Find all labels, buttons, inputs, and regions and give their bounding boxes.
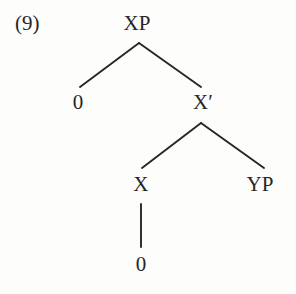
tree-edge-xp-to-spec bbox=[80, 43, 139, 87]
tree-node-specifier-zero: 0 bbox=[73, 92, 84, 113]
tree-branch-lines bbox=[0, 0, 296, 294]
tree-node-xp: XP bbox=[123, 13, 150, 34]
tree-edge-xbar-to-yp bbox=[201, 123, 264, 168]
tree-node-complement-yp: YP bbox=[246, 174, 273, 195]
tree-node-head-terminal-zero: 0 bbox=[136, 254, 147, 275]
tree-node-head-x: X bbox=[133, 174, 148, 195]
tree-edge-xp-to-xbar bbox=[139, 43, 201, 87]
tree-edge-xbar-to-head bbox=[142, 123, 201, 168]
tree-node-x-bar: X′ bbox=[193, 92, 213, 113]
syntax-tree-figure: (9) XP 0 X′ X YP 0 bbox=[0, 0, 296, 294]
